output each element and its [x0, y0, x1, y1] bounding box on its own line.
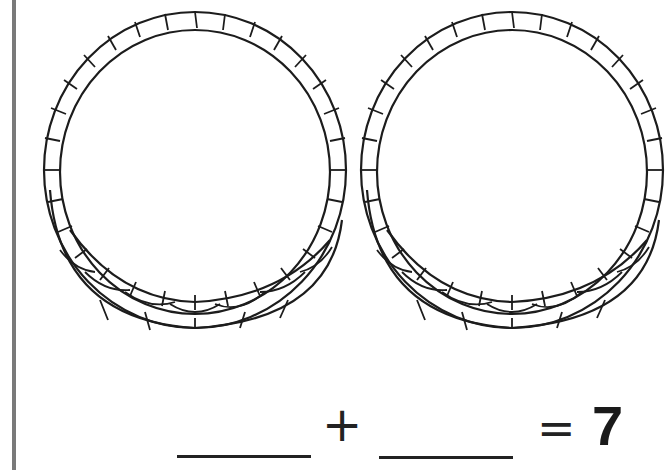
left-border	[12, 0, 16, 470]
answer-blank-1[interactable]	[177, 455, 311, 458]
basket-right-icon	[347, 0, 669, 370]
equals-sign: =	[537, 405, 576, 451]
plus-sign: +	[322, 400, 362, 448]
total-number: 7	[592, 398, 623, 454]
answer-blank-2[interactable]	[379, 456, 513, 459]
basket-left-icon	[30, 0, 360, 370]
